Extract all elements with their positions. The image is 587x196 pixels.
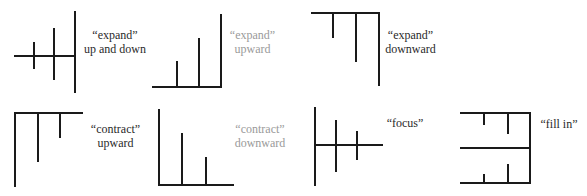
- label-line-1: “fill in”: [535, 117, 583, 131]
- label-line-1: “contract”: [230, 122, 290, 136]
- label-expand-up-down: “expand” up and down: [80, 28, 150, 56]
- diagram-expand-upward: [153, 15, 221, 87]
- diagram-focus: [315, 108, 382, 185]
- label-line-2: downward: [383, 42, 438, 56]
- diagram-expand-downward: [312, 13, 379, 85]
- label-expand-downward: “expand” downward: [383, 28, 438, 56]
- label-line-1: “expand”: [383, 28, 438, 42]
- diagram-contract-downward: [159, 110, 233, 185]
- label-fill-in: “fill in”: [535, 117, 583, 131]
- label-contract-upward: “contract” upward: [88, 122, 143, 150]
- label-contract-downward: “contract” downward: [230, 122, 290, 150]
- diagram-fill-in: [461, 113, 530, 183]
- label-line-1: “contract”: [88, 122, 143, 136]
- label-line-2: upward: [225, 42, 280, 56]
- label-line-1: “expand”: [225, 28, 280, 42]
- label-line-2: up and down: [80, 42, 150, 56]
- diagram-contract-upward: [15, 113, 82, 186]
- diagram-expand-up-down: [15, 12, 75, 92]
- label-line-2: upward: [88, 136, 143, 150]
- label-expand-upward: “expand” upward: [225, 28, 280, 56]
- label-line-2: downward: [230, 136, 290, 150]
- label-line-1: “expand”: [80, 28, 150, 42]
- label-focus: “focus”: [380, 116, 430, 130]
- label-line-1: “focus”: [380, 116, 430, 130]
